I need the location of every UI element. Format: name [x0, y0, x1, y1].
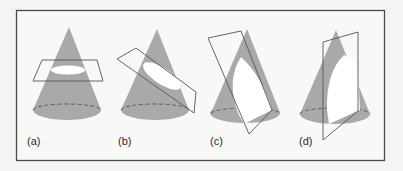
panel-c-label: (c): [210, 135, 223, 147]
conic-sections-figure: [0, 0, 403, 171]
circle-section: [51, 66, 85, 75]
panel-d-label: (d): [299, 135, 312, 147]
panel-b-label: (b): [118, 135, 131, 147]
panel-a-label: (a): [27, 135, 40, 147]
